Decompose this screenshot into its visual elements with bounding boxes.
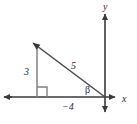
y-axis-label: y	[103, 2, 107, 12]
leg-length-minus-4: −4	[62, 102, 74, 112]
geometry-diagram: 3 5 −4 β x y	[0, 0, 137, 124]
terminal-ray-segment	[33, 43, 105, 97]
right-angle-marker	[37, 87, 47, 97]
hypotenuse-length-5: 5	[71, 61, 76, 71]
angle-beta: β	[85, 85, 90, 95]
x-axis-label: x	[122, 94, 126, 104]
leg-length-3: 3	[24, 67, 29, 77]
